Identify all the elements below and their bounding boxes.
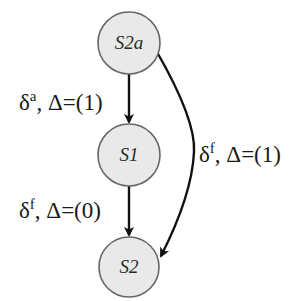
node-s1-label: S1 xyxy=(120,144,139,165)
node-s2a-label: S2a xyxy=(115,32,144,53)
state-diagram: S2a S1 S2 δa, Δ=(1) δf, Δ=(0) δf, Δ=(1) xyxy=(0,0,305,301)
node-s1[interactable]: S1 xyxy=(98,124,160,186)
edge-s2a-to-s2 xyxy=(157,52,194,256)
delta-symbol: δ xyxy=(19,90,30,115)
node-s2a[interactable]: S2a xyxy=(98,12,160,74)
node-s2-label: S2 xyxy=(120,256,140,277)
node-s2[interactable]: S2 xyxy=(99,237,159,297)
delta-symbol: δ xyxy=(19,198,30,223)
edge-label-rest: , Δ=(1) xyxy=(215,142,281,167)
edge-label-s1-s2: δf, Δ=(0) xyxy=(19,196,101,223)
edge-label-s2a-s1: δa, Δ=(1) xyxy=(19,88,103,115)
delta-symbol: δ xyxy=(199,142,210,167)
edge-label-s2a-s2: δf, Δ=(1) xyxy=(199,140,281,167)
edge-label-rest: , Δ=(0) xyxy=(35,198,101,223)
edge-label-rest: , Δ=(1) xyxy=(37,90,103,115)
